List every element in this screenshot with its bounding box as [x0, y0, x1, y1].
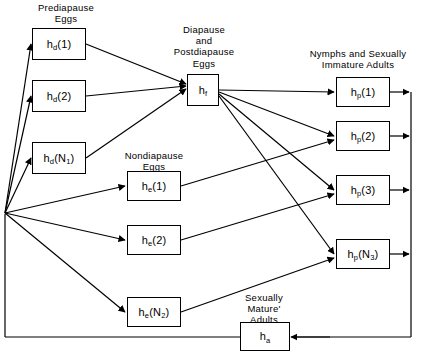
node-hdN1[interactable]: hd(N1)	[32, 142, 86, 174]
group-label-nymphs: Nymphs and Sexually Immature Adults	[296, 48, 420, 70]
node-heN2[interactable]: he(N2)	[127, 297, 181, 327]
node-ha-label: ha	[260, 331, 271, 342]
node-hd1-label: hd(1)	[47, 39, 72, 50]
node-hd2[interactable]: hd(2)	[32, 80, 86, 112]
group-label-prediapause: Prediapause Eggs	[16, 2, 116, 24]
node-hd2-label: hd(2)	[47, 91, 72, 102]
node-he1-label: he(1)	[142, 181, 167, 192]
node-hf-label: hf	[199, 85, 208, 96]
node-hf[interactable]: hf	[187, 74, 219, 106]
node-hp3[interactable]: hp(3)	[336, 175, 390, 205]
node-hp2-label: hp(2)	[351, 131, 376, 142]
node-ha[interactable]: ha	[240, 322, 290, 351]
edges-nondiapause-to-nymphs	[181, 140, 334, 312]
node-hpN3[interactable]: hp(N3)	[336, 239, 390, 269]
node-hdN1-label: hd(N1)	[44, 153, 75, 164]
node-he1[interactable]: he(1)	[127, 171, 181, 201]
edges-diapause-to-nymphs	[219, 90, 334, 254]
group-label-diapause: Diapause and Postdiapause Eggs	[158, 24, 250, 69]
node-heN2-label: he(N2)	[139, 307, 170, 318]
group-label-nondiapause: Nondiapause Eggs	[110, 150, 198, 172]
node-hp2[interactable]: hp(2)	[336, 121, 390, 151]
diagram-canvas: Prediapause Eggs Diapause and Postdiapau…	[0, 0, 423, 352]
node-hp1-label: hp(1)	[351, 87, 376, 98]
node-he2[interactable]: he(2)	[127, 225, 181, 255]
node-hd1[interactable]: hd(1)	[32, 28, 86, 60]
node-hp1[interactable]: hp(1)	[336, 77, 390, 107]
edges-nymphs-to-bus	[390, 92, 409, 254]
node-hpN3-label: hp(N3)	[348, 249, 379, 260]
node-hp3-label: hp(3)	[351, 185, 376, 196]
group-label-sexually-mature: Sexually Mature' Adults	[224, 292, 304, 326]
node-he2-label: he(2)	[142, 235, 167, 246]
